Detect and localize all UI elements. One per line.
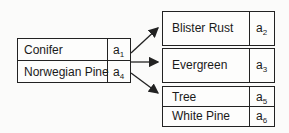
target-box-tree-white-pine: Tree a5 White Pine a6 — [162, 86, 275, 127]
row-attr: a6 — [256, 109, 267, 125]
arrow-to-blister-rust — [131, 28, 158, 53]
row-label: Tree — [172, 90, 196, 104]
column-divider — [249, 49, 250, 82]
row-attr: a1 — [113, 43, 124, 59]
row-label: Blister Rust — [172, 21, 233, 35]
row-attr: a4 — [113, 65, 124, 81]
source-box: Conifer a1 Norwegian Pine a4 — [17, 38, 131, 83]
target-box-blister-rust: Blister Rust a2 — [162, 11, 275, 46]
diagram: Conifer a1 Norwegian Pine a4 Blister Rus… — [0, 0, 289, 133]
row-label: Norwegian Pine — [24, 65, 109, 79]
row-attr: a5 — [256, 90, 267, 106]
row-label: Conifer — [24, 43, 63, 57]
row-label: White Pine — [172, 109, 230, 123]
row-divider — [18, 60, 130, 61]
row-attr: a2 — [256, 21, 267, 37]
row-label: Evergreen — [172, 58, 227, 72]
column-divider — [249, 12, 250, 45]
target-box-evergreen: Evergreen a3 — [162, 48, 275, 83]
row-attr: a3 — [256, 58, 267, 74]
arrow-to-tree — [131, 73, 158, 93]
